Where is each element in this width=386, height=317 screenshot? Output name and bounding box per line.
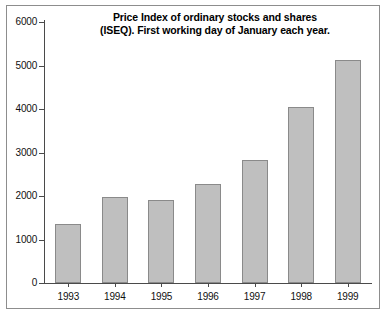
bar-1996 [195,184,221,283]
x-tick-1997 [255,283,256,287]
figure: Price Index of ordinary stocks and share… [0,0,386,317]
y-tick-label-1000: 1000 [0,235,37,245]
x-tick-1994 [115,283,116,287]
y-tick-label-6000: 6000 [0,17,37,27]
y-tick-5000 [39,66,45,67]
y-tick-2000 [39,196,45,197]
bar-1994 [102,197,128,283]
y-tick-1000 [39,240,45,241]
y-tick-4000 [39,109,45,110]
bar-1993 [55,224,81,283]
bar-1997 [242,160,268,283]
chart-title-line-1: Price Index of ordinary stocks and share… [60,11,370,24]
x-tick-1999 [348,283,349,287]
chart-title: Price Index of ordinary stocks and share… [60,11,370,37]
x-tick-1996 [208,283,209,287]
x-tick-label-1999: 1999 [318,291,378,302]
y-tick-label-5000: 5000 [0,61,37,71]
bar-1999 [335,60,361,283]
x-tick-1998 [301,283,302,287]
x-tick-1995 [161,283,162,287]
y-tick-label-4000: 4000 [0,104,37,114]
y-tick-label-2000: 2000 [0,191,37,201]
y-tick-label-3000: 3000 [0,148,37,158]
y-tick-label-0: 0 [0,278,37,288]
x-tick-1993 [68,283,69,287]
chart-title-line-2: (ISEQ). First working day of January eac… [60,24,370,37]
bar-1998 [288,107,314,283]
bar-1995 [148,200,174,283]
y-tick-3000 [39,153,45,154]
y-tick-0 [39,283,45,284]
y-tick-6000 [39,22,45,23]
